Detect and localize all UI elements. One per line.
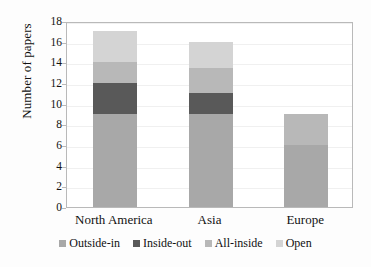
bar-segment-open bbox=[93, 31, 137, 62]
y-axis-tick-label: 2 bbox=[40, 181, 62, 193]
bar-europe bbox=[284, 114, 328, 207]
legend-label: All-inside bbox=[215, 236, 263, 251]
plot-area bbox=[66, 22, 353, 208]
gridline bbox=[67, 23, 352, 24]
y-axis-tick-label: 6 bbox=[40, 140, 62, 152]
bar-segment-inside-out bbox=[189, 93, 233, 114]
legend-item-outside-in[interactable]: Outside-in bbox=[59, 236, 120, 251]
legend-label: Open bbox=[286, 236, 312, 251]
y-axis-tick-label: 8 bbox=[40, 119, 62, 131]
bar-asia bbox=[189, 42, 233, 207]
bar-segment-outside-in bbox=[189, 114, 233, 207]
x-axis-label-europe: Europe bbox=[235, 212, 371, 228]
legend-label: Outside-in bbox=[69, 236, 120, 251]
legend-swatch-icon bbox=[133, 240, 140, 247]
y-axis-tick-label: 10 bbox=[40, 99, 62, 111]
chart-legend: Outside-inInside-outAll-insideOpen bbox=[0, 236, 371, 251]
bar-segment-outside-in bbox=[284, 145, 328, 207]
y-axis-tick-label: 14 bbox=[40, 57, 62, 69]
bar-segment-outside-in bbox=[93, 114, 137, 207]
legend-item-all-inside[interactable]: All-inside bbox=[205, 236, 263, 251]
legend-item-open[interactable]: Open bbox=[276, 236, 312, 251]
legend-swatch-icon bbox=[205, 240, 212, 247]
y-axis-tick-label: 18 bbox=[40, 16, 62, 28]
y-axis-tick-label: 16 bbox=[40, 37, 62, 49]
legend-swatch-icon bbox=[59, 240, 66, 247]
legend-swatch-icon bbox=[276, 240, 283, 247]
y-axis-tick-label: 4 bbox=[40, 161, 62, 173]
bar-north-america bbox=[93, 31, 137, 207]
bar-segment-all-inside bbox=[284, 114, 328, 145]
bar-segment-inside-out bbox=[93, 83, 137, 114]
y-axis-tick-mark bbox=[62, 208, 66, 209]
bar-segment-all-inside bbox=[189, 68, 233, 94]
legend-label: Inside-out bbox=[143, 236, 192, 251]
bar-segment-open bbox=[189, 42, 233, 68]
bar-segment-all-inside bbox=[93, 62, 137, 83]
legend-item-inside-out[interactable]: Inside-out bbox=[133, 236, 192, 251]
stacked-bar-chart: Number of papers 024681012141618 North A… bbox=[0, 0, 371, 267]
y-axis-tick-label: 12 bbox=[40, 78, 62, 90]
